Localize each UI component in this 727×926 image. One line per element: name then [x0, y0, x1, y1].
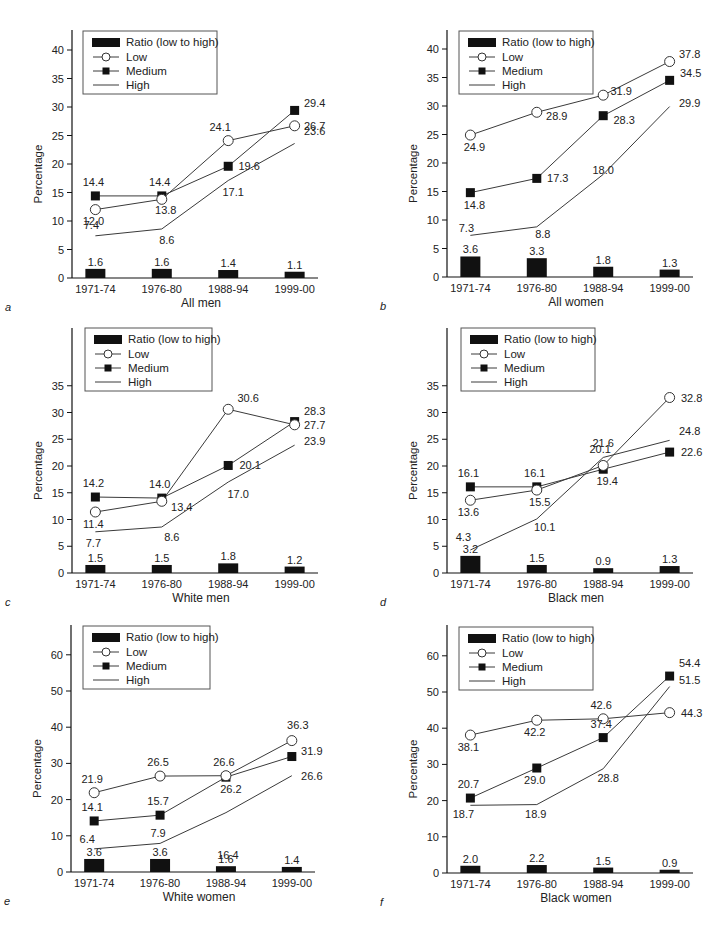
x-tick-label: 1999-00: [649, 282, 689, 294]
high-value-label: 8.6: [159, 234, 174, 246]
ratio-value-label: 0.9: [596, 555, 611, 567]
ratio-bar: [218, 563, 238, 573]
x-tick-label: 1999-00: [649, 878, 689, 890]
low-value-label: 36.3: [287, 719, 308, 731]
high-value-label: 8.8: [535, 228, 550, 240]
low-marker-circle: [290, 420, 300, 430]
ratio-value-label: 1.8: [596, 254, 611, 266]
ratio-bar: [85, 565, 105, 573]
low-value-label: 26.6: [213, 756, 234, 768]
high-value-label: 10.1: [534, 521, 555, 533]
medium-value-label: 16.1: [524, 467, 545, 479]
y-tick-label: 10: [51, 830, 63, 842]
ratio-bar: [285, 272, 305, 278]
ratio-bar: [593, 568, 613, 573]
panel-subtitle: White women: [163, 890, 236, 904]
low-marker-circle: [155, 771, 165, 781]
high-value-label: 18.0: [592, 164, 613, 176]
ratio-bar: [282, 867, 302, 872]
ratio-value-label: 1.6: [154, 256, 169, 268]
legend: Ratio (low to high)LowMediumHigh: [83, 626, 219, 689]
legend-label: Medium: [126, 65, 167, 77]
x-tick-label: 1999-00: [274, 578, 314, 590]
y-tick-label: 40: [51, 721, 63, 733]
ratio-value-label: 1.5: [154, 552, 169, 564]
high-value-label: 16.4: [217, 849, 238, 861]
ratio-value-label: 1.3: [662, 257, 677, 269]
legend-label: Low: [502, 51, 524, 63]
y-axis-label: Percentage: [32, 441, 44, 500]
y-axis-label: Percentage: [407, 441, 419, 500]
medium-marker-square: [466, 188, 475, 197]
legend-label: High: [502, 79, 526, 91]
legend-bar-swatch-icon: [470, 335, 498, 344]
y-tick-label: 30: [51, 757, 63, 769]
ratio-bar: [460, 556, 480, 573]
medium-value-label: 14.0: [149, 478, 170, 490]
medium-line: [470, 452, 669, 487]
low-value-label: 24.1: [209, 121, 230, 133]
ratio-bar: [152, 565, 172, 573]
high-line: [95, 445, 294, 532]
y-tick-label: 50: [51, 685, 63, 697]
high-value-label: 7.4: [84, 219, 99, 231]
x-tick-label: 1999-00: [649, 578, 689, 590]
y-tick-label: 5: [58, 244, 64, 256]
ratio-value-label: 1.5: [88, 552, 103, 564]
low-line: [95, 409, 294, 512]
medium-value-label: 16.1: [458, 467, 479, 479]
medium-value-label: 34.5: [680, 67, 701, 79]
legend-label: Low: [126, 51, 148, 63]
ratio-value-label: 0.9: [662, 857, 677, 869]
legend: Ratio (low to high)LowMediumHigh: [459, 31, 595, 94]
medium-marker-square: [290, 106, 299, 115]
x-tick-label: 1971-74: [75, 578, 115, 590]
high-value-label: 7.7: [86, 537, 101, 549]
legend-open-circle-icon: [478, 53, 486, 61]
medium-line: [95, 110, 294, 196]
high-value-label: 29.9: [679, 97, 700, 109]
legend-bar-swatch-icon: [92, 38, 120, 47]
low-value-label: 27.7: [304, 419, 325, 431]
high-value-label: 24.8: [679, 425, 700, 437]
x-tick-label: 1988-94: [583, 282, 623, 294]
low-marker-circle: [223, 136, 233, 146]
panel-subtitle: White men: [172, 591, 229, 605]
low-value-label: 13.4: [171, 501, 192, 513]
medium-value-label: 14.4: [83, 176, 104, 188]
legend-filled-square-icon: [103, 68, 110, 75]
ratio-bar: [460, 256, 480, 277]
high-value-label: 8.6: [164, 531, 179, 543]
x-tick-label: 1976-80: [140, 877, 180, 889]
low-marker-circle: [287, 736, 297, 746]
legend-label: Medium: [502, 661, 543, 673]
medium-value-label: 29.0: [524, 774, 545, 786]
low-marker-circle: [532, 485, 542, 495]
ratio-value-label: 1.5: [529, 552, 544, 564]
legend-label: Low: [502, 647, 524, 659]
high-value-label: 6.4: [80, 833, 95, 845]
low-line: [94, 741, 292, 793]
low-marker-circle: [598, 460, 608, 470]
high-value-label: 7.3: [459, 222, 474, 234]
y-tick-label: 50: [427, 686, 439, 698]
legend-label: High: [128, 376, 152, 388]
medium-value-label: 14.2: [83, 477, 104, 489]
medium-value-label: 28.3: [613, 114, 634, 126]
low-value-label: 11.4: [83, 518, 104, 530]
panel-d: 05101520253035Percentage1971-741976-8019…: [380, 328, 702, 608]
y-tick-label: 5: [433, 243, 439, 255]
medium-marker-square: [665, 672, 674, 681]
y-axis-label: Percentage: [32, 145, 44, 204]
medium-value-label: 19.6: [238, 160, 259, 172]
low-value-label: 32.8: [681, 392, 702, 404]
y-tick-label: 25: [52, 130, 64, 142]
medium-marker-square: [224, 461, 233, 470]
ratio-bar: [660, 566, 680, 573]
ratio-bar: [527, 565, 547, 573]
low-value-label: 13.8: [155, 204, 176, 216]
legend-label: High: [504, 376, 528, 388]
medium-value-label: 19.4: [596, 475, 617, 487]
low-value-label: 42.6: [590, 699, 611, 711]
x-tick-label: 1976-80: [142, 578, 182, 590]
